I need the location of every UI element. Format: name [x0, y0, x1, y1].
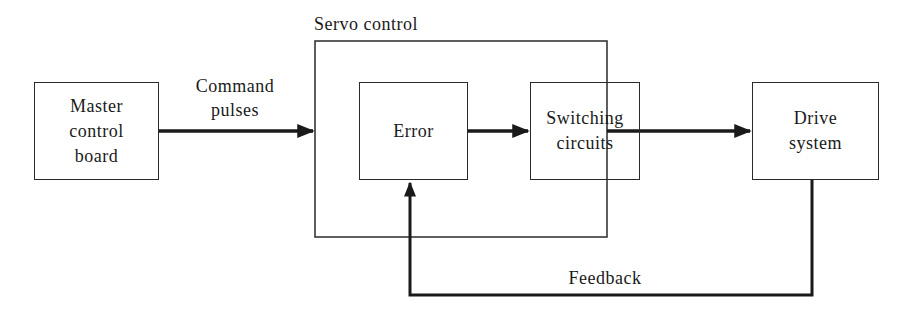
master-control-board-box: Master control board — [34, 82, 159, 180]
drive-system-box: Drive system — [752, 82, 879, 180]
switching-label-line1: Switching — [546, 106, 624, 131]
master-label-line3: board — [69, 144, 124, 169]
command-label-line2: pulses — [180, 98, 290, 122]
command-pulses-label: Command pulses — [180, 74, 290, 122]
servo-control-label: Servo control — [314, 12, 418, 36]
master-label-line1: Master — [69, 94, 124, 119]
error-box: Error — [359, 82, 468, 180]
switching-circuits-box: Switching circuits — [530, 82, 640, 180]
drive-label-line2: system — [789, 131, 842, 156]
feedback-label: Feedback — [545, 266, 665, 290]
master-label-line2: control — [69, 119, 124, 144]
drive-label-line1: Drive — [789, 106, 842, 131]
command-label-line1: Command — [180, 74, 290, 98]
switching-label-line2: circuits — [546, 131, 624, 156]
error-label: Error — [393, 119, 433, 144]
